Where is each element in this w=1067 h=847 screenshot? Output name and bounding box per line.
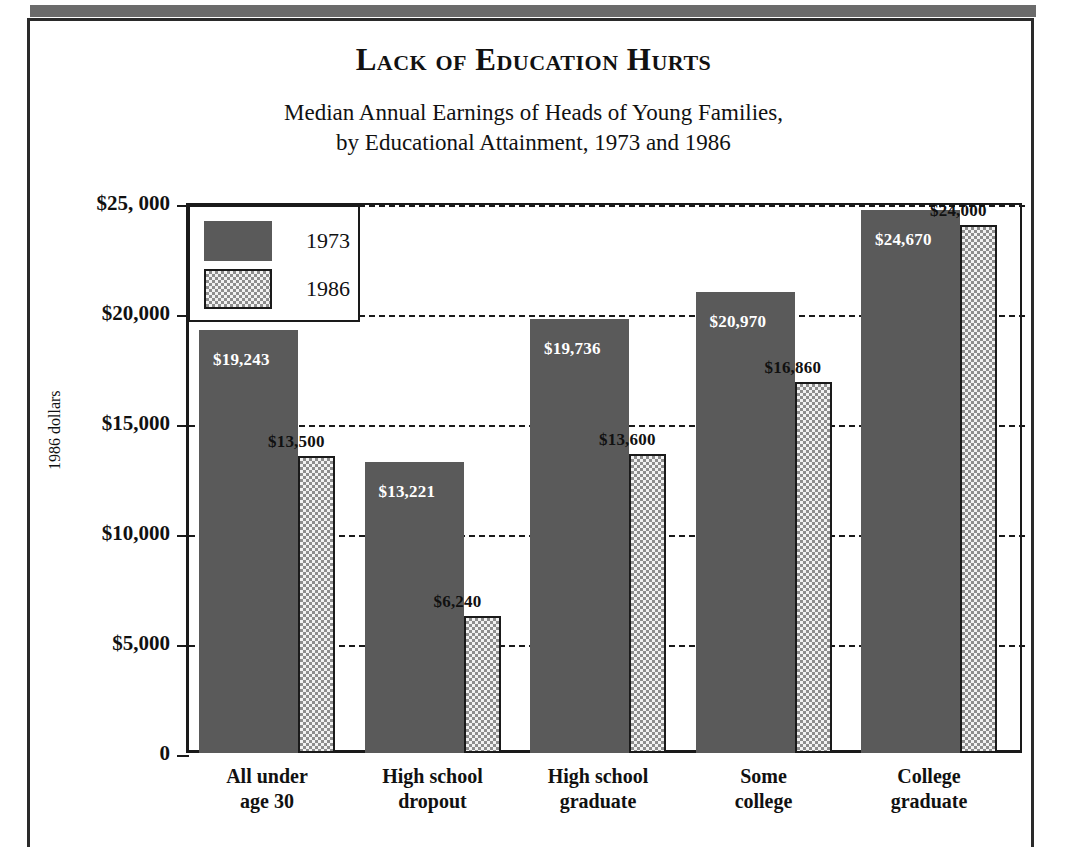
bar-value-label-1986: $24,000: [930, 201, 987, 221]
y-axis-tick-label: $10,000: [102, 521, 170, 546]
bar-1986: [298, 456, 335, 753]
legend-entry-1973: 1973: [204, 221, 350, 261]
x-axis-category-label: Collegegraduate: [831, 764, 1027, 814]
legend-swatch-1973: [204, 221, 272, 261]
bar-1973: [861, 210, 960, 753]
bar-value-label-1973: $20,970: [710, 312, 767, 332]
y-axis-tick-labels: 0$5,000$10,000$15,000$20,000$25, 000: [0, 0, 186, 847]
legend-swatch-1986: [204, 269, 272, 309]
bar-1986: [464, 616, 501, 753]
legend-label-1986: 1986: [306, 276, 350, 302]
y-axis-tick: [177, 535, 189, 537]
bar-1973: [199, 330, 298, 753]
y-axis-tick: [177, 645, 189, 647]
bar-value-label-1986: $13,500: [268, 432, 325, 452]
bar-1973: [530, 319, 629, 753]
bar-value-label-1973: $19,243: [213, 350, 270, 370]
bar-1986: [629, 454, 666, 753]
y-axis-tick: [177, 425, 189, 427]
bar-1986: [795, 382, 832, 753]
bar-value-label-1973: $19,736: [544, 339, 601, 359]
bar-value-label-1973: $24,670: [875, 230, 932, 250]
bar-value-label-1973: $13,221: [379, 482, 436, 502]
bar-value-label-1986: $13,600: [599, 430, 656, 450]
y-axis-tick-label: $15,000: [102, 411, 170, 436]
legend-label-1973: 1973: [306, 228, 350, 254]
y-axis-tick-label: $20,000: [102, 301, 170, 326]
x-axis-category-line: College: [831, 764, 1027, 789]
bar-value-label-1986: $16,860: [765, 358, 822, 378]
y-axis-tick-label: $25, 000: [97, 191, 171, 216]
bar-value-label-1986: $6,240: [434, 592, 482, 612]
legend-entry-1986: 1986: [204, 269, 350, 309]
y-axis-tick: [177, 755, 189, 757]
chart-legend: 1973 1986: [188, 205, 360, 322]
y-axis-tick-label: 0: [160, 741, 171, 766]
y-axis-tick-label: $5,000: [112, 631, 170, 656]
bar-1986: [960, 225, 997, 753]
x-axis-category-line: graduate: [831, 789, 1027, 814]
plot-area: 1986 dollars 0$5,000$10,000$15,000$20,00…: [0, 0, 1067, 847]
